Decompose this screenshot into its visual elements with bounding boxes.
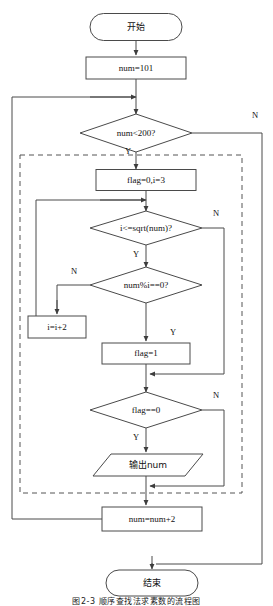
edge-flag-no	[202, 410, 224, 486]
init-flag-process-shape	[96, 170, 196, 191]
edge-sqrt-no	[202, 228, 224, 374]
edge-label-range-no: N	[252, 110, 258, 120]
edge-label-range-yes: Y	[125, 146, 131, 156]
edge-label-flag-no: N	[213, 390, 219, 400]
inc-i-process-shape	[28, 316, 86, 338]
cond-mod-shape	[90, 267, 202, 303]
set-flag-process-shape	[102, 343, 190, 364]
inc-num-process-shape	[102, 507, 202, 531]
cond-range-shape	[80, 114, 192, 152]
flowchart-figure: 开始 num=101 num<200? flag=0,i=3 i<=sqrt(n…	[0, 0, 273, 606]
edge-cond-range-no	[192, 133, 262, 564]
cond-flag-shape	[90, 392, 202, 428]
edge-label-sqrt-yes: Y	[133, 249, 139, 259]
end-terminator-shape	[106, 570, 198, 596]
start-terminator-shape	[90, 14, 182, 41]
edge-label-flag-yes: Y	[133, 432, 139, 442]
edge-label-sqrt-no: N	[213, 208, 219, 218]
cond-sqrt-shape	[90, 211, 202, 245]
output-io-shape	[93, 454, 203, 476]
edge-label-mod-yes: Y	[170, 327, 176, 337]
init-process-shape	[86, 57, 186, 79]
figure-caption: 图2-3 顺序查找法求素数的流程图	[0, 595, 273, 606]
flowchart-canvas	[0, 0, 273, 606]
edge-mod-no	[57, 285, 90, 312]
edge-label-mod-no: N	[71, 266, 77, 276]
